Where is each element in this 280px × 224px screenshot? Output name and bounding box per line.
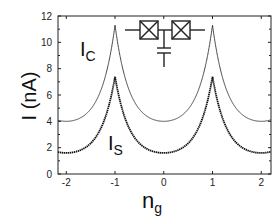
circuit-inset-icon — [125, 21, 205, 67]
series-is-curve — [58, 77, 271, 153]
x-tick-label: -2 — [62, 177, 71, 188]
y-tick-label: 6 — [46, 90, 52, 101]
x-tick-label: -1 — [111, 177, 120, 188]
x-axis-ticks: -2-1012 — [62, 16, 265, 188]
chart: 024681012 -2-1012 IC IS I (nA) ng — [0, 0, 280, 224]
y-tick-label: 4 — [46, 116, 52, 127]
y-axis-title: I (nA) — [18, 72, 40, 121]
y-tick-label: 0 — [46, 169, 52, 180]
x-tick-label: 0 — [161, 177, 167, 188]
x-axis-title: ng — [142, 188, 162, 216]
is-label: IS — [108, 132, 123, 158]
y-tick-label: 2 — [46, 142, 52, 153]
x-tick-label: 1 — [210, 177, 216, 188]
y-tick-label: 8 — [46, 63, 52, 74]
y-tick-label: 12 — [41, 11, 53, 22]
ic-label: IC — [80, 38, 96, 64]
x-tick-label: 2 — [258, 177, 264, 188]
y-tick-label: 10 — [41, 37, 53, 48]
